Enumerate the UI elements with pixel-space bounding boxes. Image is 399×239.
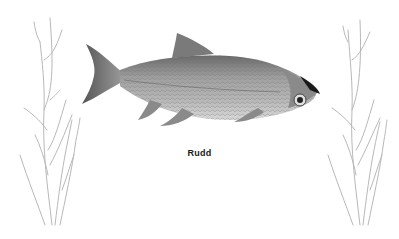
fish-icon	[82, 33, 320, 126]
illustration-canvas: Rudd	[0, 0, 399, 239]
left-plant-icon	[20, 18, 80, 225]
fish-caption: Rudd	[0, 148, 399, 158]
illustration-svg	[0, 0, 399, 239]
right-plant-icon	[328, 20, 387, 225]
